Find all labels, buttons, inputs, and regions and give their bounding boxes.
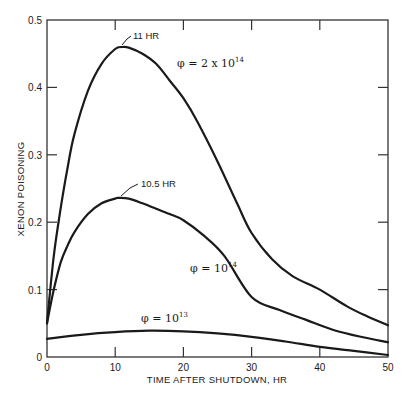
data-curves bbox=[47, 47, 388, 355]
x-axis-label: TIME AFTER SHUTDOWN, HR bbox=[147, 374, 287, 385]
y-tick-label: 0.3 bbox=[28, 150, 42, 161]
peak-time-annotation: 11 HR bbox=[133, 30, 159, 41]
curve-flux-2e14 bbox=[47, 47, 388, 326]
series-label: φ = 1014 bbox=[190, 261, 237, 275]
x-tick-label: 10 bbox=[110, 362, 122, 373]
peak-time-annotation: 10.5 HR bbox=[141, 178, 176, 189]
y-tick-label: 0.5 bbox=[28, 15, 42, 26]
xenon-poisoning-chart: 0102030405000.10.20.30.40.5 φ = 2 x 1014… bbox=[0, 0, 407, 394]
series-label: φ = 2 x 1014 bbox=[177, 56, 245, 70]
x-tick-label: 30 bbox=[246, 362, 258, 373]
y-axis-label: XENON POISONING bbox=[15, 142, 26, 237]
y-tick-label: 0.1 bbox=[28, 285, 42, 296]
y-tick-label: 0.4 bbox=[28, 82, 42, 93]
series-label: φ = 1013 bbox=[141, 311, 188, 325]
y-tick-label: 0 bbox=[36, 352, 42, 363]
x-tick-label: 20 bbox=[178, 362, 190, 373]
peak-leader-arrow bbox=[122, 36, 131, 45]
x-tick-label: 40 bbox=[314, 362, 326, 373]
x-tick-label: 50 bbox=[382, 362, 394, 373]
y-tick-label: 0.2 bbox=[28, 217, 42, 228]
curve-flux-1e13 bbox=[47, 331, 388, 355]
peak-leader-arrow bbox=[121, 184, 138, 196]
x-tick-label: 0 bbox=[44, 362, 50, 373]
